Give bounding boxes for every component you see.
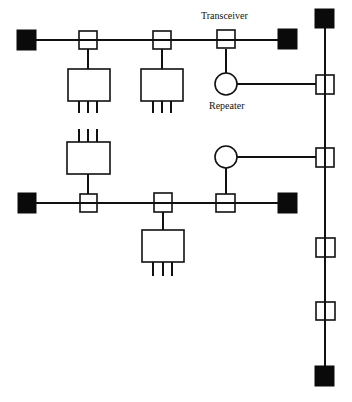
station (142, 230, 184, 276)
station (68, 69, 110, 113)
network-diagram (0, 0, 352, 402)
terminator (315, 9, 334, 28)
repeater (215, 146, 237, 168)
terminator (278, 29, 297, 49)
terminator (315, 366, 334, 386)
station (67, 129, 110, 174)
transceiver-label: Transceiver (201, 10, 248, 21)
station (141, 69, 183, 113)
repeater-label: Repeater (209, 100, 245, 111)
repeater (215, 73, 237, 95)
terminator (17, 30, 36, 50)
terminator (278, 193, 297, 213)
terminator (18, 193, 36, 213)
